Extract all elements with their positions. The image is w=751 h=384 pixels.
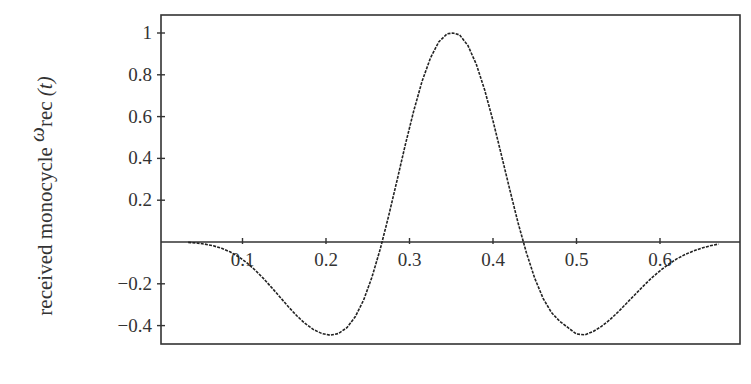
y-tick-label: −0.4 — [118, 315, 153, 336]
y-axis-ticks: 10.80.60.40.2−0.2−0.4 — [118, 22, 165, 336]
y-tick-label: −0.2 — [118, 273, 152, 294]
y-axis-title-prefix: received monocycle — [33, 142, 57, 316]
x-tick-label: 0.6 — [648, 249, 672, 270]
chart-canvas: 10.80.60.40.2−0.2−0.4 0.10.20.30.40.50.6… — [0, 0, 751, 384]
y-tick-label: 0.2 — [128, 189, 152, 210]
x-tick-label: 0.5 — [565, 249, 589, 270]
y-tick-label: 1 — [143, 22, 153, 43]
y-axis-title: received monocycle ωrec (t) — [25, 76, 57, 315]
y-tick-label: 0.8 — [128, 64, 152, 85]
monocycle-curve — [188, 33, 718, 335]
y-tick-label: 0.6 — [128, 106, 152, 127]
x-tick-label: 0.4 — [481, 249, 505, 270]
y-axis-title-symbol: ω — [25, 127, 49, 142]
x-axis-ticks: 0.10.20.30.40.50.6 — [231, 238, 672, 270]
y-axis-title-suffix: (t) — [33, 76, 57, 101]
y-axis-title-subscript: rec — [33, 101, 57, 127]
y-tick-label: 0.4 — [128, 147, 152, 168]
x-tick-label: 0.2 — [314, 249, 338, 270]
x-tick-label: 0.3 — [398, 249, 422, 270]
plot-frame — [161, 15, 740, 344]
